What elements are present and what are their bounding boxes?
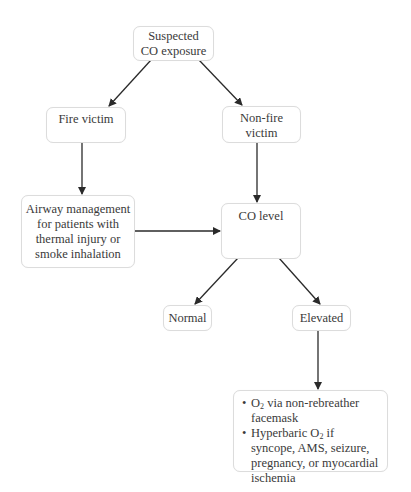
node-text-line: Suspected bbox=[141, 29, 207, 44]
treatment-text: O bbox=[251, 396, 260, 410]
node-text-line: Fire victim bbox=[47, 112, 125, 127]
arrow-colevel-to-normal bbox=[195, 258, 238, 304]
node-text-line: victim bbox=[223, 126, 300, 141]
node-treatment: O2 via non-rebreather facemask Hyperbari… bbox=[233, 390, 388, 472]
node-text-line: thermal injury or bbox=[26, 232, 130, 247]
node-text-line: for patients with bbox=[26, 217, 130, 232]
node-text-line: CO level bbox=[222, 209, 300, 224]
node-non-fire-victim: Non-fire victim bbox=[222, 106, 301, 143]
node-text-line: CO exposure bbox=[141, 44, 207, 59]
arrow-start-to-fire bbox=[109, 60, 151, 106]
node-co-level: CO level bbox=[221, 203, 301, 259]
treatment-item: O2 via non-rebreather facemask bbox=[242, 396, 381, 426]
node-elevated: Elevated bbox=[292, 305, 351, 331]
node-text-line: Non-fire bbox=[223, 111, 300, 126]
arrow-colevel-to-elevated bbox=[279, 258, 320, 304]
node-text-line: Airway management bbox=[26, 202, 130, 217]
node-text-line: Elevated bbox=[300, 311, 344, 326]
arrow-start-to-nonfire bbox=[199, 60, 242, 105]
node-suspected-co-exposure: Suspected CO exposure bbox=[133, 26, 214, 61]
node-text-line: Normal bbox=[168, 311, 206, 326]
node-text-line: smoke inhalation bbox=[26, 247, 130, 262]
treatment-text: Hyperbaric O bbox=[251, 426, 319, 440]
node-airway-management: Airway management for patients with ther… bbox=[21, 195, 135, 268]
treatment-list: O2 via non-rebreather facemask Hyperbari… bbox=[242, 396, 381, 486]
node-fire-victim: Fire victim bbox=[46, 107, 126, 143]
node-normal: Normal bbox=[163, 305, 212, 331]
treatment-item: Hyperbaric O2 if syncope, AMS, seizure, … bbox=[242, 426, 381, 486]
treatment-text: via non-rebreather facemask bbox=[251, 396, 359, 425]
